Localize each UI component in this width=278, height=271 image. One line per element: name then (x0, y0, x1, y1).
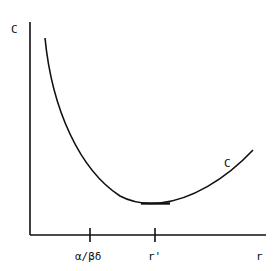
cost-curve-diagram: C C α/βδ r' r (0, 0, 278, 271)
tick-label-alpha-beta-delta: α/βδ (75, 250, 102, 263)
x-axis-label: r (256, 250, 263, 263)
curve-label: C (224, 157, 231, 170)
cost-curve (45, 38, 253, 203)
tick-label-r-prime: r' (148, 250, 161, 263)
y-axis-label: C (11, 23, 18, 36)
